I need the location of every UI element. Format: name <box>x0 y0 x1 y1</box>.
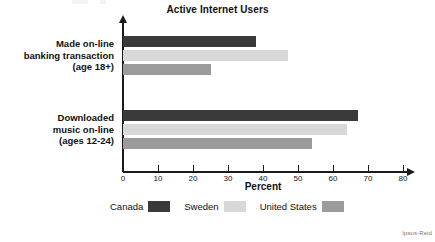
legend-swatch-united-states <box>322 201 344 212</box>
category-label-line: music on-line <box>6 124 114 136</box>
x-axis-tick <box>228 165 229 171</box>
legend-entry-sweden: Sweden <box>184 201 259 212</box>
category-label-banking: Made on-line banking transaction (age 18… <box>6 38 114 73</box>
chart-title: Active Internet Users <box>0 4 435 15</box>
legend-label: Canada <box>110 201 143 212</box>
legend-swatch-canada <box>148 201 170 212</box>
category-label-line: (ages 12-24) <box>6 135 114 147</box>
legend-swatch-sweden <box>224 201 246 212</box>
source-attribution: Ipsos-Reid <box>402 230 432 236</box>
bar-sweden-group2 <box>123 124 347 135</box>
x-axis-tick <box>368 165 369 171</box>
category-label-line: Made on-line <box>6 38 114 50</box>
bar-unitedstates-group1 <box>123 64 211 75</box>
bar-canada-group2 <box>123 110 358 121</box>
x-axis-tick <box>123 165 124 171</box>
chart-container: Active Internet Users Made on-line banki… <box>0 0 435 242</box>
chart-legend: Canada Sweden United States <box>110 198 410 214</box>
category-label-music: Downloaded music on-line (ages 12-24) <box>6 112 114 147</box>
legend-entry-canada: Canada <box>110 201 184 212</box>
x-axis-tick <box>263 165 264 171</box>
bar-canada-group1 <box>123 36 256 47</box>
x-axis-tick <box>333 165 334 171</box>
x-axis-tick <box>193 165 194 171</box>
category-label-line: Downloaded <box>6 112 114 124</box>
x-axis-tick <box>298 165 299 171</box>
legend-label: United States <box>260 201 317 212</box>
bar-unitedstates-group2 <box>123 138 312 149</box>
bar-sweden-group1 <box>123 50 288 61</box>
x-axis-title: Percent <box>123 181 403 192</box>
legend-label: Sweden <box>184 201 218 212</box>
x-axis-tick <box>158 165 159 171</box>
category-label-line: banking transaction <box>6 50 114 62</box>
x-axis-line <box>123 171 408 173</box>
y-axis-arrow-icon <box>119 15 127 23</box>
legend-entry-united-states: United States <box>260 201 358 212</box>
plot-area: 01020304050607080 <box>123 22 403 172</box>
category-label-line: (age 18+) <box>6 61 114 73</box>
x-axis-tick <box>403 165 404 171</box>
